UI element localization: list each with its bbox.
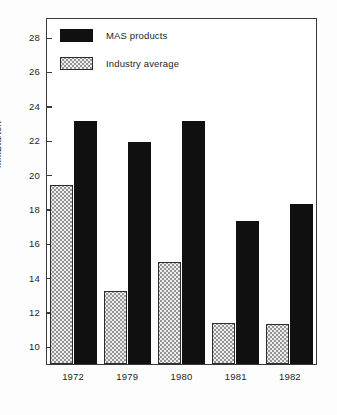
legend-label-industry-average: Industry average [106, 58, 179, 69]
x-tick-label-1981: 1981 [209, 371, 263, 382]
x-tick-label-1982: 1982 [263, 371, 317, 382]
bar-mas-products-1981 [236, 221, 259, 364]
x-tick-label-1979: 1979 [100, 371, 154, 382]
y-tick-label: 16 [14, 238, 40, 249]
legend-swatch-dark-icon [60, 29, 93, 42]
y-tick-label: 24 [14, 101, 40, 112]
legend-label-mas-products: MAS products [106, 30, 167, 41]
x-tick-label-1972: 1972 [46, 371, 100, 382]
legend-item-industry-average: Industry average [60, 54, 190, 72]
bar-mas-products-1980 [182, 121, 205, 364]
y-axis-label: MMBtu/ton [0, 48, 3, 168]
legend-swatch-stippled-icon [60, 57, 93, 70]
y-tick-mark [46, 106, 52, 107]
chart-legend: MAS products Industry average [60, 26, 190, 82]
y-tick-label: 14 [14, 273, 40, 284]
bar-mas-products-1979 [128, 142, 151, 364]
y-tick-label: 26 [14, 66, 40, 77]
y-tick-label: 18 [14, 204, 40, 215]
bar-industry-average-1982 [266, 324, 289, 364]
bar-industry-average-1981 [212, 323, 235, 364]
y-tick-mark [46, 72, 52, 73]
bar-industry-average-1980 [158, 262, 181, 364]
y-tick-label: 22 [14, 135, 40, 146]
bar-mas-products-1982 [290, 204, 313, 364]
x-tick-label-1980: 1980 [155, 371, 209, 382]
bar-chart-figure: MMBtu/ton 10121416182022242628 197219791… [0, 0, 337, 415]
y-tick-mark [46, 141, 52, 142]
y-tick-mark [46, 175, 52, 176]
y-tick-label: 28 [14, 32, 40, 43]
y-tick-label: 10 [14, 341, 40, 352]
bar-industry-average-1979 [104, 291, 127, 364]
legend-item-mas-products: MAS products [60, 26, 190, 44]
bar-mas-products-1972 [74, 121, 97, 364]
y-tick-mark [46, 38, 52, 39]
bar-industry-average-1972 [50, 185, 73, 364]
y-tick-label: 12 [14, 307, 40, 318]
y-tick-label: 20 [14, 170, 40, 181]
